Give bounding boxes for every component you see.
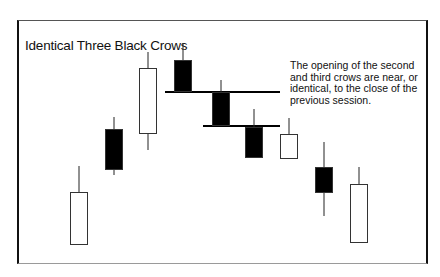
candle-white	[351, 167, 368, 243]
candle-black	[316, 142, 333, 216]
candle-white	[71, 166, 88, 245]
candle-white	[140, 52, 157, 150]
candlestick-plot	[0, 0, 440, 277]
candle-body	[175, 61, 192, 92]
candle-white	[281, 118, 298, 159]
candle-body	[71, 193, 88, 245]
candle-body	[213, 93, 230, 126]
candle-body	[106, 130, 123, 170]
candle-body	[246, 128, 263, 158]
candle-black	[175, 43, 192, 92]
candle-black	[213, 80, 230, 126]
candle-body	[316, 168, 333, 193]
candle-body	[140, 69, 157, 134]
candle-body	[351, 185, 368, 243]
candle-body	[281, 135, 298, 159]
candle-black	[106, 117, 123, 175]
candle-black	[246, 109, 263, 158]
